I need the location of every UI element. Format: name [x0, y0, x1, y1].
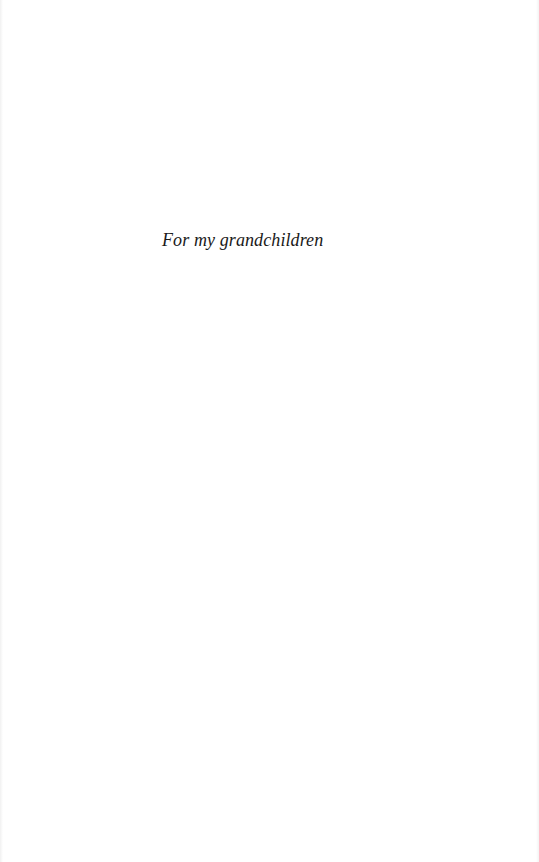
- book-page: For my grandchildren: [0, 0, 539, 862]
- dedication-text: For my grandchildren: [162, 229, 323, 251]
- page-edge-left: [0, 0, 3, 862]
